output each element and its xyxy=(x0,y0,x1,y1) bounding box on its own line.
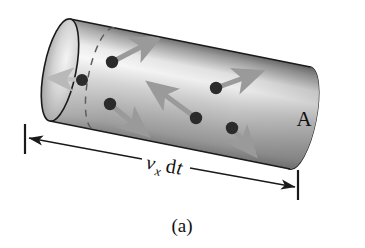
cylinder-diagram: A v x d t (a) xyxy=(0,0,365,248)
area-label: A xyxy=(296,107,312,131)
charge-dot xyxy=(104,98,116,110)
charge-dot xyxy=(226,122,238,134)
charge-dot xyxy=(210,82,222,94)
charge-dot xyxy=(76,74,88,86)
dimension-arrow-left xyxy=(29,138,142,159)
charge-dot xyxy=(190,112,202,124)
charge-dot xyxy=(106,56,118,68)
dimension-arrow-right xyxy=(190,168,295,187)
cylinder-body-group xyxy=(34,16,326,172)
length-label-group: v x d t xyxy=(144,151,185,183)
figure-caption: (a) xyxy=(171,215,192,237)
figure-container: A v x d t (a) xyxy=(0,0,365,248)
